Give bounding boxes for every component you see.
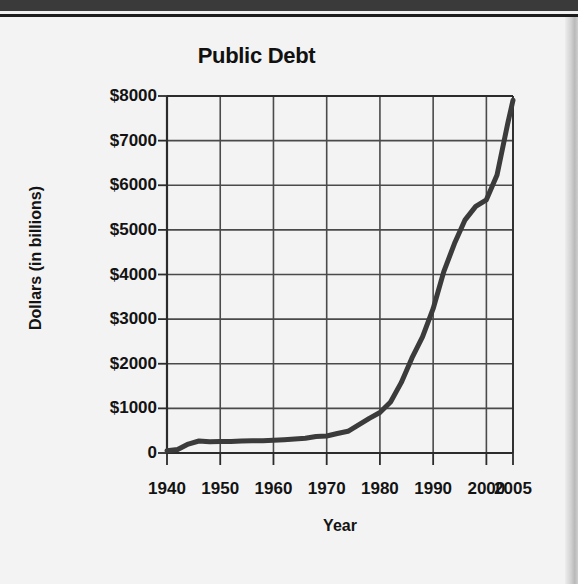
x-tick-label: 1990 [414,479,452,499]
x-tick-label: 1960 [255,479,293,499]
y-axis-tick-labels: 0$1000$2000$3000$4000$5000$6000$7000$800… [62,96,157,453]
line-chart-svg [167,96,513,453]
scan-right-edge [565,17,578,584]
scan-top-band [0,0,578,11]
y-tick-label: $1000 [62,398,157,418]
chart-figure: Public Debt Dollars (in billions) Year 0… [0,17,565,584]
y-tick-label: $2000 [62,354,157,374]
y-tick-label: $3000 [62,309,157,329]
x-tick-label: 2005 [494,479,532,499]
y-tick-label: $8000 [62,86,157,106]
x-tick-label: 1950 [201,479,239,499]
y-tick-label: 0 [62,443,157,463]
plot-area [167,96,513,453]
grid-lines [167,96,513,453]
x-axis-tick-labels: 19401950196019701980199020002005 [167,479,513,503]
x-tick-label: 1980 [361,479,399,499]
y-tick-label: $5000 [62,220,157,240]
x-tick-label: 1940 [148,479,186,499]
public-debt-line [167,100,513,450]
chart-title: Public Debt [0,43,513,69]
y-tick-label: $4000 [62,265,157,285]
tick-marks [158,96,513,465]
x-tick-label: 1970 [308,479,346,499]
y-tick-label: $6000 [62,175,157,195]
x-axis-title: Year [167,517,513,535]
y-axis-title: Dollars (in billions) [27,158,45,358]
y-tick-label: $7000 [62,131,157,151]
